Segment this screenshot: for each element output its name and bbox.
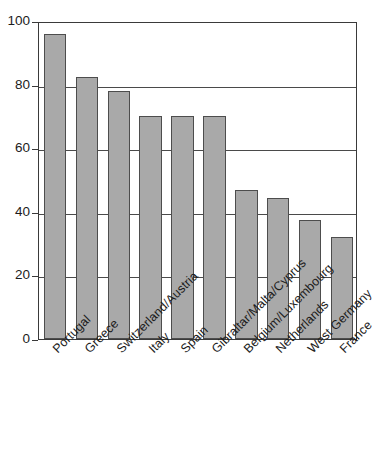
y-tick-label-80: 80: [0, 77, 30, 92]
y-tick-label-100: 100: [0, 13, 30, 28]
bar: [76, 77, 98, 339]
bar: [171, 116, 193, 339]
bar: [44, 34, 66, 339]
y-tick-0: [32, 340, 38, 341]
y-tick-label-40: 40: [0, 204, 30, 219]
y-tick-label-0: 0: [0, 331, 30, 346]
y-tick-label-20: 20: [0, 267, 30, 282]
bar: [108, 91, 130, 339]
bar: [203, 116, 225, 339]
y-tick-label-60: 60: [0, 140, 30, 155]
